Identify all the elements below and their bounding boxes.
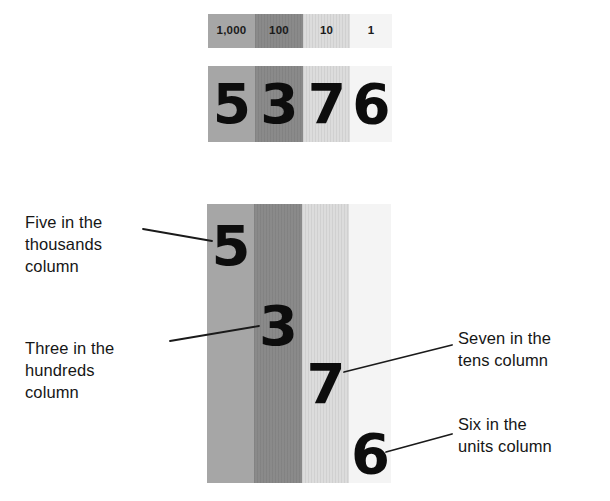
- compact-cell-thousands: 5: [208, 66, 255, 142]
- compact-cell-units: 6: [350, 66, 392, 142]
- annotation-thousands: Five in the thousands column: [25, 212, 102, 277]
- key-cell-tens: 10: [303, 14, 350, 48]
- key-cell-hundreds: 100: [255, 14, 303, 48]
- expanded-digit-hundreds: 3: [259, 298, 297, 354]
- compact-digit-units: 6: [352, 77, 389, 132]
- place-value-key-bar: 1,000 100 10 1: [208, 14, 392, 48]
- annotation-units: Six in the units column: [458, 414, 552, 458]
- units-leader-line: [386, 434, 452, 452]
- key-cell-units: 1: [350, 14, 392, 48]
- compact-number-band: 5 3 7 6: [208, 66, 392, 142]
- annotation-tens: Seven in the tens column: [458, 328, 551, 372]
- key-label-units: 1: [368, 25, 375, 37]
- expanded-digit-units: 6: [351, 426, 389, 482]
- key-label-tens: 10: [320, 25, 333, 37]
- thousands-leader-line: [143, 229, 212, 241]
- expanded-digit-thousands: 5: [212, 218, 250, 274]
- compact-cell-hundreds: 3: [255, 66, 303, 142]
- key-cell-thousands: 1,000: [208, 14, 255, 48]
- compact-digit-thousands: 5: [213, 77, 250, 132]
- expanded-digit-tens: 7: [307, 356, 345, 412]
- key-label-thousands: 1,000: [217, 25, 247, 37]
- compact-digit-tens: 7: [308, 77, 345, 132]
- expanded-cell-hundreds: 3: [254, 204, 302, 483]
- annotation-hundreds: Three in the hundreds column: [25, 338, 114, 403]
- expanded-cell-units: 6: [349, 204, 391, 483]
- compact-digit-hundreds: 3: [260, 77, 297, 132]
- expanded-number-band: 5 3 7 6: [207, 204, 391, 483]
- expanded-cell-thousands: 5: [207, 204, 254, 483]
- compact-cell-tens: 7: [303, 66, 350, 142]
- expanded-cell-tens: 7: [302, 204, 349, 483]
- key-label-hundreds: 100: [269, 25, 289, 37]
